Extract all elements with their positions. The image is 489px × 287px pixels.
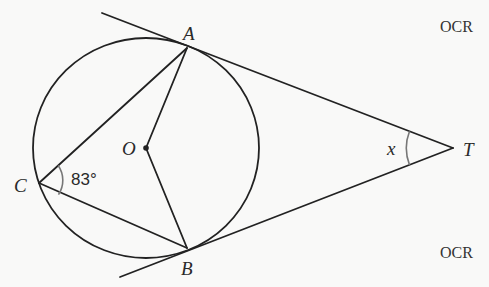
label-point-A: A	[181, 23, 195, 44]
label-point-T: T	[463, 139, 475, 160]
label-point-C: C	[14, 175, 27, 196]
centre-point-O	[143, 145, 149, 151]
label-point-O: O	[122, 138, 136, 159]
angle-label-C: 83°	[71, 170, 97, 189]
watermark-bottom: OCR	[440, 244, 473, 261]
watermark-top: OCR	[440, 18, 473, 35]
chord-CA	[39, 48, 187, 183]
angle-label-x: x	[386, 138, 396, 159]
angle-arc-T	[406, 131, 409, 165]
radius-OA	[146, 48, 187, 148]
label-point-B: B	[181, 258, 193, 279]
circle-tangent-diagram: A B C O T 83° x OCR OCR	[0, 0, 489, 287]
tangent-line-at-B	[120, 148, 453, 277]
angle-arc-C	[58, 166, 63, 195]
